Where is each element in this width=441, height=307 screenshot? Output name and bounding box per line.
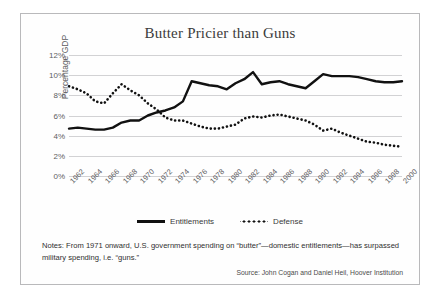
y-axis-ticks: 0%2%4%6%8%10%12% (31, 55, 65, 176)
y-axis-tick-label: 6% (31, 111, 65, 120)
plot-area (69, 55, 402, 176)
y-axis-tick-label: 2% (31, 151, 65, 160)
x-axis-tick-label: 2000 (401, 167, 419, 185)
legend-swatch-dotted-icon (240, 220, 268, 223)
series-lines (69, 55, 402, 176)
y-axis-tick-label: 4% (31, 131, 65, 140)
legend-swatch-solid-icon (137, 220, 165, 223)
legend-item-entitlements: Entitlements (137, 217, 214, 226)
legend-item-defense: Defense (240, 217, 303, 226)
chart-figure: Butter Pricier than Guns Percentage GDP … (20, 13, 420, 285)
chart-title: Butter Pricier than Guns (21, 25, 419, 42)
y-axis-tick-label: 12% (31, 51, 65, 60)
series-line-defense (69, 84, 402, 147)
series-line-entitlements (69, 72, 402, 129)
legend-label: Defense (273, 217, 303, 226)
y-axis-tick-label: 8% (31, 91, 65, 100)
chart-source: Source: John Cogan and Daniel Heil, Hoov… (236, 269, 403, 276)
legend-label: Entitlements (170, 217, 214, 226)
chart-notes: Notes: From 1971 onward, U.S. government… (42, 240, 402, 264)
chart-legend: EntitlementsDefense (21, 217, 419, 226)
y-axis-tick-label: 10% (31, 71, 65, 80)
x-axis-ticks: 1962196419661968197019721974197619781980… (69, 179, 402, 209)
y-axis-tick-label: 0% (31, 172, 65, 181)
